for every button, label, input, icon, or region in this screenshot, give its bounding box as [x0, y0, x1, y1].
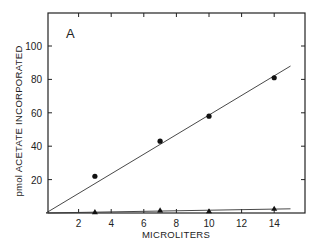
x-tick-label: 2 — [76, 218, 82, 229]
plot-border — [48, 13, 305, 213]
y-tick-label: 60 — [31, 108, 43, 119]
y-tick-label: 40 — [31, 141, 43, 152]
y-axis-ticks: 20406080100 — [25, 41, 305, 186]
data-point-circle — [272, 75, 277, 80]
x-axis-ticks: 2468101214 — [76, 13, 280, 229]
data-point-circle — [158, 139, 163, 144]
x-tick-label: 14 — [269, 218, 281, 229]
y-tick-label: 100 — [25, 41, 42, 52]
data-point-circle — [206, 114, 211, 119]
x-axis-title: MICROLITERS — [142, 229, 210, 240]
y-tick-label: 80 — [31, 74, 43, 85]
fit-lines — [46, 66, 291, 213]
data-points — [92, 75, 277, 214]
x-tick-label: 8 — [174, 218, 180, 229]
plot-frame — [48, 13, 305, 213]
x-tick-label: 10 — [203, 218, 215, 229]
data-point-triangle — [271, 206, 277, 211]
panel-label: A — [66, 26, 75, 41]
data-point-triangle — [157, 207, 163, 212]
data-point-triangle — [206, 208, 212, 213]
data-point-circle — [92, 174, 97, 179]
fit-line-triangles — [46, 209, 291, 213]
x-tick-label: 12 — [236, 218, 248, 229]
fit-line-circles — [46, 66, 291, 213]
y-tick-label: 20 — [31, 175, 43, 186]
chart: 2468101214 20406080100 A MICROLITERS pmo… — [0, 0, 315, 250]
data-point-triangle — [92, 209, 98, 214]
x-tick-label: 4 — [108, 218, 114, 229]
x-tick-label: 6 — [141, 218, 147, 229]
y-axis-title: pmol ACETATE INCORPORATED — [13, 45, 24, 196]
